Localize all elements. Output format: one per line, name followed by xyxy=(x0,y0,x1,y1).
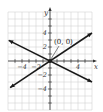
origin-annotation: (0, 0) xyxy=(54,38,73,46)
y-tick-label: 4 xyxy=(42,29,47,37)
y-tick-label: −2 xyxy=(37,71,47,79)
y-tick-label: 2 xyxy=(42,43,47,51)
y-axis-label: y xyxy=(43,9,49,17)
x-tick-label: 4 xyxy=(75,63,80,71)
y-axis-arrow-icon xyxy=(48,7,51,11)
x-axis-label: x xyxy=(94,63,98,71)
origin-point xyxy=(48,59,52,63)
y-tick-label: −4 xyxy=(37,85,47,93)
x-tick-label: −4 xyxy=(17,63,27,71)
coordinate-plane: xy −4−24−4−224 (0, 0) xyxy=(0,0,103,112)
